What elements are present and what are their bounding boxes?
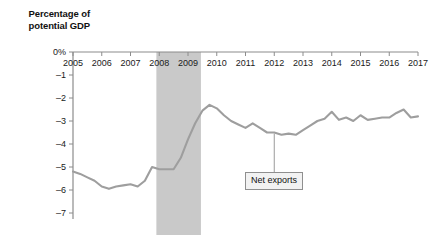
x-tick-label: 2017 [408, 58, 428, 68]
y-tick-label: –6 [56, 185, 66, 195]
net-exports-callout: Net exports [245, 172, 303, 190]
y-tick-labels-group: 0%–1–2–3–4–5–6–7 [53, 47, 66, 218]
chart-plot-area: 0%–1–2–3–4–5–6–7 20052006200720082009201… [0, 0, 429, 238]
tick-marks-group [69, 52, 418, 213]
x-tick-label: 2006 [92, 58, 112, 68]
y-tick-label: –2 [56, 93, 66, 103]
x-tick-label: 2015 [350, 58, 370, 68]
x-tick-label: 2005 [63, 58, 83, 68]
x-tick-label: 2016 [379, 58, 399, 68]
x-tick-label: 2009 [178, 58, 198, 68]
x-tick-label: 2008 [149, 58, 169, 68]
axes-group [73, 52, 418, 219]
x-tick-label: 2013 [293, 58, 313, 68]
shaded-regions-group [156, 52, 201, 235]
x-tick-label: 2012 [264, 58, 284, 68]
x-tick-labels-group: 2005200620072008200920102011201220132014… [63, 58, 428, 68]
y-tick-label: –4 [56, 139, 66, 149]
y-tick-label: –5 [56, 162, 66, 172]
x-tick-label: 2010 [207, 58, 227, 68]
y-tick-label: –1 [56, 70, 66, 80]
net-exports-callout-label: Net exports [251, 175, 297, 185]
chart-container: Percentage of potential GDP 0%–1–2–3–4–5… [0, 0, 429, 238]
y-tick-label: 0% [53, 47, 66, 57]
recession-band [156, 52, 201, 235]
y-tick-label: –7 [56, 208, 66, 218]
y-tick-label: –3 [56, 116, 66, 126]
x-tick-label: 2007 [120, 58, 140, 68]
x-tick-label: 2014 [322, 58, 342, 68]
x-tick-label: 2011 [236, 58, 255, 68]
